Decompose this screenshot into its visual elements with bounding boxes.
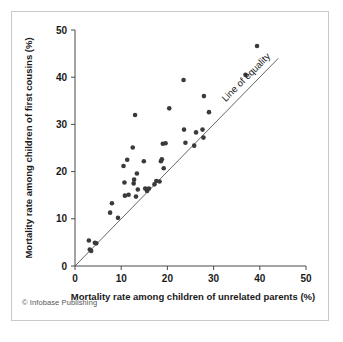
- data-point: [147, 186, 152, 191]
- data-point: [201, 135, 206, 140]
- data-point: [167, 106, 172, 111]
- y-axis-tick-labels: 01020304050: [56, 25, 68, 272]
- data-point: [89, 249, 94, 254]
- data-point: [126, 192, 131, 197]
- data-point: [130, 145, 135, 150]
- data-point: [192, 143, 197, 148]
- x-tick-label: 30: [208, 273, 220, 284]
- x-tick-label: 50: [300, 273, 312, 284]
- y-tick-label: 0: [61, 261, 67, 272]
- x-tick-label: 0: [72, 273, 78, 284]
- line-of-equality-label: Line of equality: [219, 50, 272, 103]
- data-point: [181, 78, 186, 83]
- x-tick-label: 20: [162, 273, 174, 284]
- data-point: [136, 187, 141, 192]
- data-point: [110, 201, 115, 206]
- data-point: [142, 159, 147, 164]
- x-axis-title: Mortality rate among children of unrelat…: [71, 291, 315, 302]
- data-point: [135, 171, 140, 176]
- line-of-equality: [75, 58, 278, 266]
- figure-panel: 01020304050 01020304050 Line of equality…: [11, 11, 329, 321]
- y-tick-label: 10: [56, 213, 68, 224]
- data-points-group: [87, 44, 260, 253]
- data-point: [121, 164, 126, 169]
- data-point: [160, 157, 165, 162]
- x-tick-label: 10: [116, 273, 128, 284]
- y-axis-ticks: [71, 30, 75, 266]
- data-point: [133, 113, 138, 118]
- x-axis-ticks: [75, 266, 306, 270]
- data-point: [116, 216, 121, 221]
- y-tick-label: 30: [56, 119, 68, 130]
- copyright-credit: © Infobase Publishing: [22, 298, 97, 307]
- data-point: [161, 166, 166, 171]
- y-tick-label: 20: [56, 166, 68, 177]
- data-point: [202, 94, 207, 99]
- y-tick-label: 40: [56, 72, 68, 83]
- data-point: [255, 44, 260, 49]
- data-point: [182, 127, 187, 132]
- data-point: [207, 110, 212, 115]
- y-axis-title: Mortality rate among children of first c…: [23, 37, 34, 258]
- data-point: [94, 241, 99, 246]
- y-tick-label: 50: [56, 25, 68, 36]
- data-point: [183, 141, 188, 146]
- data-point: [132, 177, 137, 182]
- data-point: [163, 141, 168, 146]
- data-point: [134, 194, 139, 199]
- scatter-plot: 01020304050 01020304050 Line of equality…: [12, 12, 328, 320]
- data-point: [125, 158, 130, 163]
- data-point: [87, 238, 92, 243]
- x-tick-label: 40: [254, 273, 266, 284]
- data-point: [200, 127, 205, 132]
- data-point: [194, 130, 199, 135]
- data-point: [122, 180, 127, 185]
- data-point: [108, 210, 113, 215]
- x-axis-tick-labels: 01020304050: [72, 273, 312, 284]
- data-point: [157, 179, 162, 184]
